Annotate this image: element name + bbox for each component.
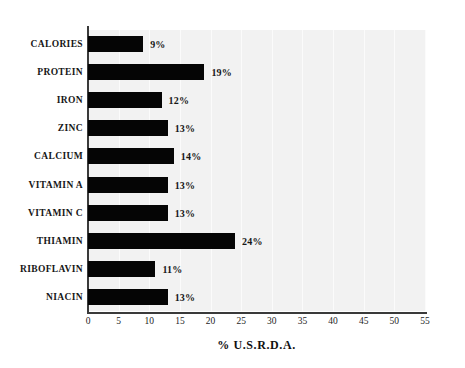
bar-row: RIBOFLAVIN11% [0,255,465,283]
x-tick-label: 0 [86,316,91,326]
bar-value-label: 11% [162,263,182,274]
category-label: CALCIUM [34,151,83,161]
bar-value-label: 13% [175,123,196,134]
x-tick-label: 45 [359,316,369,326]
x-axis-title: % U.S.R.D.A. [88,338,425,353]
bar [88,289,168,305]
bar-row: IRON12% [0,86,465,114]
bar-row: VITAMIN A13% [0,170,465,198]
x-tick-label: 30 [267,316,277,326]
x-tick-label: 35 [298,316,308,326]
x-tick-label: 10 [145,316,155,326]
bar-value-label: 13% [175,291,196,302]
bar [88,64,204,80]
x-axis-line [87,312,427,314]
x-axis-ticks: 0510152025303540455055 [88,316,425,332]
category-label: PROTEIN [37,67,83,77]
bar-value-label: 14% [181,151,202,162]
bar-row: ZINC13% [0,114,465,142]
bar [88,120,168,136]
bar-track: 11% [88,261,425,277]
bar-row: NIACIN13% [0,283,465,311]
bar [88,205,168,221]
x-tick-label: 20 [206,316,216,326]
bar-track: 19% [88,64,425,80]
chart-page: CALORIES9%PROTEIN19%IRON12%ZINC13%CALCIU… [0,0,465,368]
bar [88,261,155,277]
bar-value-label: 12% [169,95,190,106]
bar-track: 13% [88,177,425,193]
bar-track: 14% [88,148,425,164]
bar [88,36,143,52]
bar-value-label: 13% [175,179,196,190]
x-tick-label: 25 [236,316,246,326]
category-label: THIAMIN [37,236,83,246]
bar-value-label: 9% [150,39,165,50]
category-label: ZINC [58,123,83,133]
bar-track: 13% [88,205,425,221]
bar [88,177,168,193]
bar-track: 24% [88,233,425,249]
bar-track: 13% [88,120,425,136]
x-tick-label: 40 [328,316,338,326]
category-label: IRON [57,95,83,105]
bar-value-label: 13% [175,207,196,218]
category-label: VITAMIN C [28,208,83,218]
bar-track: 13% [88,289,425,305]
x-tick-label: 50 [390,316,400,326]
bar-track: 12% [88,92,425,108]
bar-value-label: 24% [242,235,263,246]
bar [88,233,235,249]
bar-row: CALORIES9% [0,30,465,58]
bar-row: PROTEIN19% [0,58,465,86]
bar [88,148,174,164]
category-label: VITAMIN A [29,180,83,190]
category-label: CALORIES [31,39,83,49]
x-tick-label: 55 [420,316,430,326]
x-tick-label: 15 [175,316,185,326]
bar [88,92,162,108]
bar-rows: CALORIES9%PROTEIN19%IRON12%ZINC13%CALCIU… [0,30,465,311]
bar-row: VITAMIN C13% [0,199,465,227]
category-label: NIACIN [46,292,83,302]
bar-track: 9% [88,36,425,52]
bar-value-label: 19% [211,67,232,78]
x-tick-label: 5 [116,316,121,326]
bar-row: THIAMIN24% [0,227,465,255]
category-label: RIBOFLAVIN [20,264,83,274]
bar-row: CALCIUM14% [0,142,465,170]
